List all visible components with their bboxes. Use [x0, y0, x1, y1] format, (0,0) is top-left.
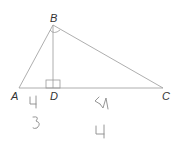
handwritten-4-ad: [30, 96, 36, 108]
label-a: A: [10, 90, 18, 102]
handwritten-51-dc: [95, 97, 108, 109]
triangle-diagram: B A D C: [0, 0, 185, 141]
handwritten-4-bottom: [96, 125, 104, 138]
label-c: C: [162, 90, 170, 102]
label-b: B: [50, 12, 57, 24]
segment-bc: [53, 25, 163, 88]
label-d: D: [50, 90, 58, 102]
right-angle-marker-b: [50, 30, 60, 33]
handwritten-3: [33, 117, 39, 129]
segment-ab: [19, 25, 53, 88]
